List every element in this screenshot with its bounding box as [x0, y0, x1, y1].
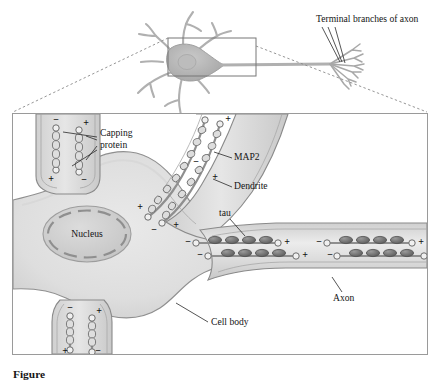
figure-root: Terminal branches of axon	[0, 0, 442, 380]
polarity-sign-ax2-left: −	[197, 249, 203, 260]
svg-text:Figure: Figure	[13, 368, 45, 380]
zoom-line-left	[13, 38, 168, 112]
polarity-sign-ax3-left: −	[316, 236, 322, 247]
polarity-sign-tl1-bottom: +	[48, 173, 54, 184]
polarity-sign-tr1-proximal: −	[151, 224, 157, 235]
label-capping-protein-line2: protein	[100, 139, 127, 150]
polarity-sign-tr2-distal: −	[193, 156, 199, 167]
label-capping-protein-line1: Capping	[100, 127, 133, 138]
polarity-sign-ax4-left: −	[327, 249, 333, 260]
polarity-sign-tl1-top: −	[53, 114, 59, 125]
overview-axon	[221, 64, 330, 65]
polarity-sign-tr-extra-plus-2: +	[173, 219, 179, 230]
label-cell-body: Cell body	[211, 316, 249, 327]
polarity-sign-ax1-right: +	[284, 236, 290, 247]
capping-protein-beads-bl2	[88, 322, 95, 346]
polarity-sign-ax3-right: +	[418, 236, 424, 247]
polarity-sign-ax2-right: +	[302, 249, 308, 260]
terminal-label-leaders	[322, 27, 345, 63]
zoom-connector-lines	[13, 38, 427, 112]
label-nucleus: Nucleus	[71, 228, 103, 239]
label-tau: tau	[219, 207, 231, 218]
polarity-sign-ax1-left: −	[185, 236, 191, 247]
polarity-sign-bl2-top: +	[96, 305, 102, 316]
overview-neuron: Terminal branches of axon	[138, 12, 419, 115]
polarity-sign-tl2-bottom: −	[81, 174, 87, 185]
label-terminal-branches: Terminal branches of axon	[316, 13, 419, 24]
capping-protein-beads-bl1	[66, 320, 73, 344]
polarity-sign-tr2-proximal: +	[137, 201, 143, 212]
polarity-sign-ax4-right: +	[430, 249, 436, 260]
figure-caption: Figure	[13, 368, 45, 380]
caption-prefix: Figure	[13, 368, 45, 380]
polarity-sign-bl1-top: −	[67, 302, 73, 313]
overview-nucleus	[178, 55, 196, 70]
label-axon: Axon	[333, 292, 355, 303]
overview-terminal-branches	[330, 44, 364, 89]
detail-panel: Nucleus − +	[13, 113, 437, 356]
label-map2: MAP2	[234, 151, 260, 162]
polarity-sign-tr1-distal: +	[225, 113, 231, 124]
neuron-figure-svg: Terminal branches of axon	[0, 0, 442, 380]
label-dendrite: Dendrite	[234, 180, 268, 191]
polarity-sign-tl2-top: +	[83, 117, 89, 128]
